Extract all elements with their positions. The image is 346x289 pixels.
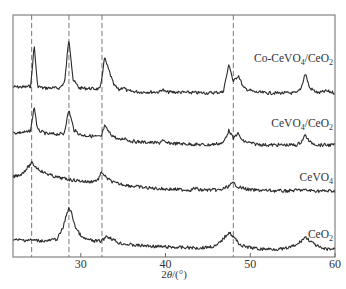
x-axis-label-unit: /(°) <box>172 268 187 281</box>
xrd-traces <box>13 42 335 251</box>
x-tick-label-30: 30 <box>75 257 87 271</box>
x-tick-label-50: 50 <box>244 257 256 271</box>
x-tick-label-60: 60 <box>329 257 341 271</box>
trace-ceo2 <box>13 208 335 251</box>
x-axis-ticks: 30405060 <box>75 253 341 271</box>
series-labels: Co-CeVO4/CeO2CeVO4/CeO2CeVO4CeO2 <box>254 52 333 243</box>
trace-cevo4 <box>13 162 335 193</box>
series-label-cevo4: CeVO4 <box>300 171 333 186</box>
series-label-cevo4-ceo2: CeVO4/CeO2 <box>271 117 333 132</box>
trace-co-cevo4-ceo2 <box>13 42 335 95</box>
series-label-co-cevo4-ceo2: Co-CeVO4/CeO2 <box>254 52 333 67</box>
reference-dashed-lines <box>32 15 234 257</box>
x-axis-label: 2θ/(°) <box>161 268 187 281</box>
xrd-chart: Co-CeVO4/CeO2CeVO4/CeO2CeVO4CeO2 3040506… <box>0 0 346 289</box>
